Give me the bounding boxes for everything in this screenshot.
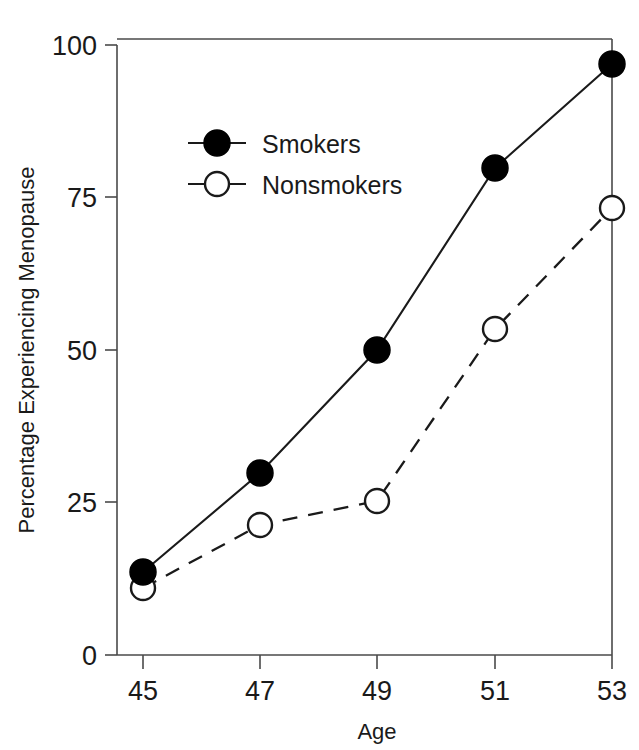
nonsmokers-point-47 [248,513,272,537]
open-circle-marker-icon [205,172,229,196]
series-nonsmokers [131,196,624,600]
smokers-point-51 [482,155,508,181]
nonsmokers-line [143,208,612,588]
legend-entry-smokers: Smokers [188,130,361,158]
x-tick-label-47: 47 [245,676,275,706]
filled-circle-marker-icon [204,130,230,156]
y-tick-label-75: 75 [67,183,97,213]
y-tick-label-100: 100 [52,31,97,61]
x-axis-title: Age [357,719,396,744]
legend-label-nonsmokers: Nonsmokers [262,171,402,199]
nonsmokers-point-49 [365,489,389,513]
x-tick-label-51: 51 [480,676,510,706]
x-tick-label-53: 53 [597,676,627,706]
y-tick-label-0: 0 [82,641,97,671]
smokers-point-49 [364,337,390,363]
x-axis-ticks [143,655,612,669]
chart-figure: 100 75 50 25 0 45 47 49 51 53 Age Percen… [0,0,639,750]
chart-legend: Smokers Nonsmokers [188,130,402,199]
y-tick-label-25: 25 [67,488,97,518]
legend-label-smokers: Smokers [262,130,361,158]
nonsmokers-point-53 [600,196,624,220]
smokers-point-47 [247,460,273,486]
y-tick-label-50: 50 [67,336,97,366]
nonsmokers-point-51 [483,317,507,341]
y-axis-ticks [105,45,117,655]
x-tick-label-45: 45 [128,676,158,706]
smokers-point-45 [130,559,156,585]
smokers-point-53 [599,51,625,77]
y-axis-title: Percentage Experiencing Menopause [14,167,39,534]
y-axis-tick-labels: 100 75 50 25 0 [52,31,97,671]
x-tick-label-49: 49 [362,676,392,706]
x-axis-tick-labels: 45 47 49 51 53 [128,676,627,706]
legend-entry-nonsmokers: Nonsmokers [188,171,402,199]
line-chart-canvas: 100 75 50 25 0 45 47 49 51 53 Age Percen… [0,0,639,750]
